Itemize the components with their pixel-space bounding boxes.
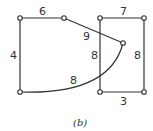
node-f [98,90,103,95]
figure-caption: (b) [73,117,87,128]
node-b [62,16,67,21]
node-e [142,16,147,21]
label-top-left: 6 [39,5,46,18]
node-d [98,16,103,21]
graph-diagram: 6 4 9 8 8 7 8 3 (b) [0,0,153,131]
label-diagonal: 9 [83,30,90,43]
label-left: 4 [10,49,17,62]
label-curve: 8 [70,74,77,87]
label-rect-top: 7 [120,5,127,18]
label-rect-bottom: 3 [120,95,127,108]
edge-b-h [64,18,123,43]
label-rect-left: 8 [91,49,98,62]
label-rect-right: 8 [134,49,141,62]
node-g [142,90,147,95]
node-h [121,41,126,46]
node-a [18,16,23,21]
node-c [18,90,23,95]
